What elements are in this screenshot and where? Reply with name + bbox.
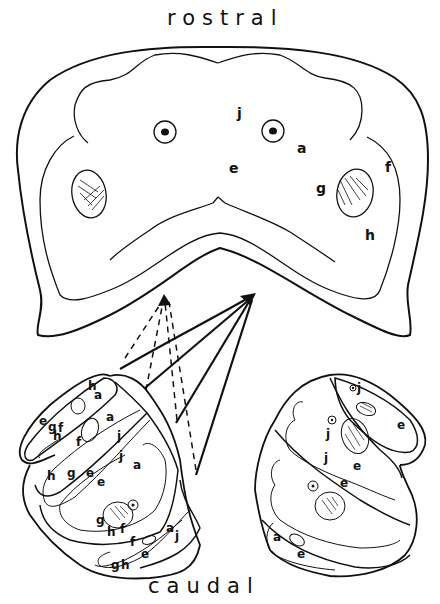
left-foramen (154, 121, 176, 143)
label-j: j (236, 105, 242, 121)
right-foramen (262, 120, 284, 142)
caudal-left-stack: h a e g f h a f j j a h g e e g h f f a … (20, 374, 200, 578)
left-hatched-body (68, 167, 110, 220)
rostral-section: j a e f g h (17, 47, 428, 336)
label-h: h (365, 227, 375, 243)
label-g: g (316, 180, 326, 196)
label-f: f (385, 159, 392, 175)
caudal-left-labels: h a e g f h a f j j a h g e e g h f f a … (39, 379, 183, 572)
right-hatched-body (333, 166, 377, 220)
anatomy-diagram: j a e f g h (0, 0, 440, 604)
label-e: e (229, 160, 239, 176)
label-a: a (297, 140, 306, 156)
dashed-arrowhead-icon (158, 294, 171, 306)
caudal-right-stack: j e j j e e a e (255, 374, 425, 576)
